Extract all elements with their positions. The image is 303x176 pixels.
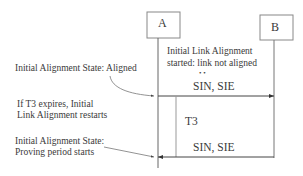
message-label-2: SIN, SIE [193, 142, 235, 153]
timer-label: T3 [185, 116, 198, 127]
note-line-2: started: link not aligned [167, 58, 257, 69]
note-ellipsis: • • [199, 68, 206, 79]
message-label-1: SIN, SIE [193, 81, 235, 92]
pointer-proving [104, 147, 154, 157]
participant-label-a: A [158, 18, 167, 29]
participant-label-b: B [271, 22, 279, 33]
annotation-t3-expires-line-2: Link Alignment restarts [17, 110, 107, 121]
pointer-aligned [110, 76, 154, 96]
annotation-aligned: Initial Alignment State: Aligned [15, 63, 137, 74]
annotation-t3-expires-line-1: If T3 expires, Initial [17, 99, 93, 110]
annotation-proving-line-1: Initial Alignment State: [15, 136, 104, 147]
annotation-proving-line-2: Proving period starts [15, 147, 94, 158]
note-line-1: Initial Link Alignment [167, 46, 253, 57]
